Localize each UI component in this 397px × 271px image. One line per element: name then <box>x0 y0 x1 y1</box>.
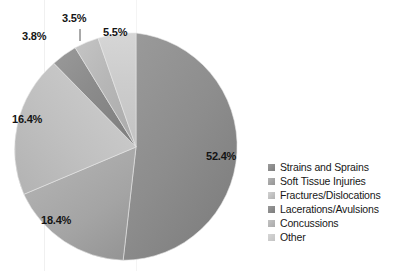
legend-item-lacerations-avulsions[interactable]: Lacerations/Avulsions <box>268 202 397 216</box>
legend-label: Fractures/Dislocations <box>280 189 381 201</box>
legend-swatch-icon <box>268 164 275 171</box>
legend-swatch-icon <box>268 178 275 185</box>
legend-label: Other <box>280 231 306 243</box>
legend-item-strains-and-sprains[interactable]: Strains and Sprains <box>268 160 397 174</box>
slice-value-label-soft-tissue-injuries: 18.4% <box>41 214 71 226</box>
slice-value-label-fractures-dislocations: 16.4% <box>12 113 42 125</box>
legend-label: Soft Tissue Injuries <box>280 175 366 187</box>
legend-label: Concussions <box>280 217 338 229</box>
pie-slice-strains-and-sprains[interactable] <box>123 33 237 260</box>
legend-item-soft-tissue-injuries[interactable]: Soft Tissue Injuries <box>268 174 397 188</box>
legend-label: Strains and Sprains <box>280 161 369 173</box>
slice-value-label-strains-and-sprains: 52.4% <box>206 150 236 162</box>
legend-item-other[interactable]: Other <box>268 230 397 244</box>
slice-value-label-lacerations-avulsions: 3.8% <box>22 30 46 42</box>
legend-swatch-icon <box>268 234 275 241</box>
pie-chart: 52.4% 18.4% 16.4% 3.8% 3.5% 5.5% Strains… <box>0 0 397 271</box>
legend-item-fractures-dislocations[interactable]: Fractures/Dislocations <box>268 188 397 202</box>
slice-value-label-other: 5.5% <box>103 26 127 38</box>
legend-item-concussions[interactable]: Concussions <box>268 216 397 230</box>
slice-value-label-concussions: 3.5% <box>62 12 86 24</box>
legend-swatch-icon <box>268 206 275 213</box>
pie-slices <box>15 33 238 260</box>
legend-label: Lacerations/Avulsions <box>280 203 379 215</box>
legend-swatch-icon <box>268 192 275 199</box>
chart-legend: Strains and Sprains Soft Tissue Injuries… <box>268 160 397 244</box>
pie-plot-area: 52.4% 18.4% 16.4% 3.8% 3.5% 5.5% <box>0 0 265 271</box>
legend-swatch-icon <box>268 220 275 227</box>
